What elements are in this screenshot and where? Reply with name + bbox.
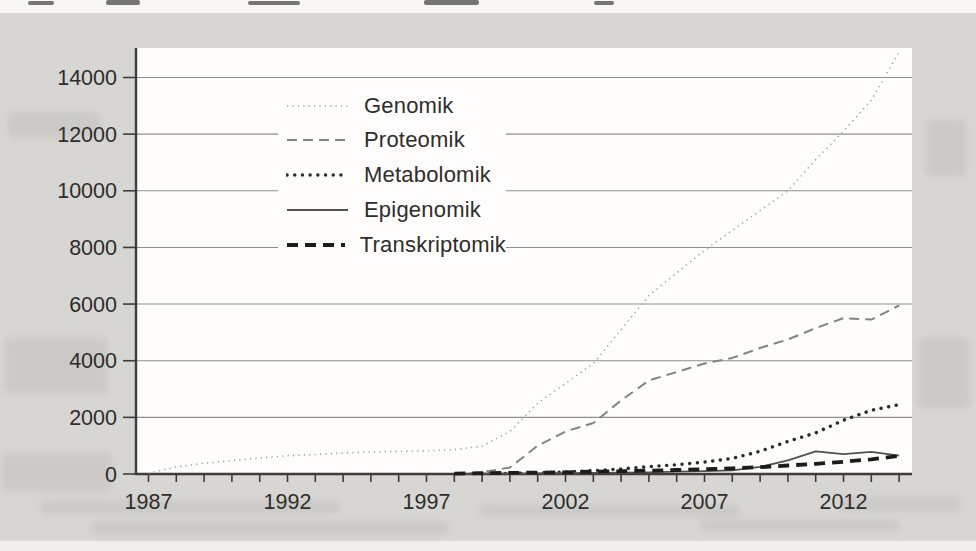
y-tick-label: 10000 <box>57 179 117 203</box>
y-tick-label: 6000 <box>69 293 117 317</box>
scanned-page: 0200040006000800010000120001400019871992… <box>0 0 976 551</box>
legend-label-genomik: Genomik <box>364 93 453 119</box>
y-tick-label: 2000 <box>69 406 117 430</box>
y-tick-label: 0 <box>105 463 117 487</box>
legend-item-metabolomik: Metabolomik <box>286 159 506 192</box>
page-bottom-margin <box>0 541 976 551</box>
chart-canvas: 0200040006000800010000120001400019871992… <box>0 0 976 551</box>
legend-line-sample-proteomik <box>286 135 349 145</box>
x-tick-label: 1997 <box>403 490 451 514</box>
y-tick-label: 8000 <box>69 236 117 260</box>
legend-line-sample-metabolomik <box>286 170 349 180</box>
publication-trend-figure: 0200040006000800010000120001400019871992… <box>0 0 976 551</box>
legend-line-sample-epigenomik <box>286 205 349 215</box>
y-tick-label: 12000 <box>57 123 117 147</box>
legend-item-transkriptomik: Transkriptomik <box>286 228 506 261</box>
legend-item-genomik: Genomik <box>286 89 506 122</box>
x-tick-label: 2012 <box>820 490 868 514</box>
x-tick-label: 1987 <box>125 490 173 514</box>
x-tick-label: 1992 <box>264 490 312 514</box>
legend-line-sample-genomik <box>286 101 349 111</box>
legend-line-sample-transkriptomik <box>286 240 345 250</box>
chart-legend: Genomik Proteomik Metabolomik Epigenomik… <box>278 87 506 263</box>
legend-item-epigenomik: Epigenomik <box>286 193 506 226</box>
y-tick-label: 14000 <box>57 66 117 90</box>
legend-label-metabolomik: Metabolomik <box>364 162 491 188</box>
plot-area <box>136 48 912 474</box>
y-tick-label: 4000 <box>69 349 117 373</box>
x-tick-label: 2007 <box>681 490 729 514</box>
x-tick-label: 2002 <box>542 490 590 514</box>
legend-label-transkriptomik: Transkriptomik <box>360 232 506 258</box>
legend-item-proteomik: Proteomik <box>286 124 506 157</box>
legend-label-epigenomik: Epigenomik <box>364 197 481 223</box>
legend-label-proteomik: Proteomik <box>364 127 465 153</box>
